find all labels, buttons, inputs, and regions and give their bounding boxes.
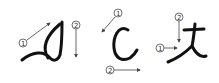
character-1-glyph: [22, 22, 62, 60]
character-2-glyph: [114, 29, 137, 60]
char-2-stroke-2-arrow: 2: [106, 66, 140, 75]
char-3-stroke-1-arrow: 1: [156, 44, 177, 53]
char-1-label-2: 2: [74, 22, 78, 30]
char-1-label-1: 1: [21, 40, 25, 48]
char-1-stroke-2-arrow: 2: [72, 21, 80, 57]
char-3-stroke-2-arrow: 2: [175, 13, 183, 42]
char-3-label-1: 1: [158, 45, 162, 53]
char-3-label-2: 2: [177, 14, 181, 22]
char-2-label-1: 1: [116, 10, 120, 18]
char-2-label-2: 2: [108, 67, 112, 75]
stroke-order-diagram: 1 2 1 2 1: [0, 0, 219, 83]
character-3-glyph: [168, 24, 206, 62]
